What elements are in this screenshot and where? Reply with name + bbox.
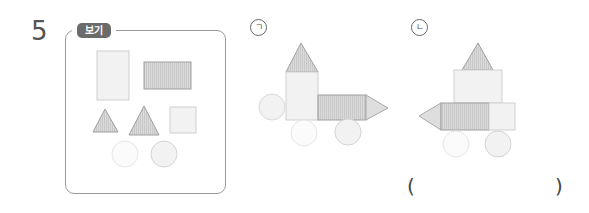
wide-rectangle-shape: [441, 103, 489, 130]
answer-close-paren: ): [555, 174, 563, 198]
circle-shape-light: [443, 131, 469, 157]
wide-rectangle-shape: [318, 95, 366, 120]
small-triangle-shape: [93, 109, 118, 132]
option-b-figure: [419, 43, 515, 157]
large-triangle-shape: [129, 106, 159, 135]
triangle-shape: [286, 43, 318, 72]
arrow-triangle-shape: [419, 103, 441, 130]
circle-shape-light: [291, 120, 317, 146]
option-a-figure: [259, 43, 388, 146]
tall-rectangle-shape: [97, 51, 129, 100]
option-b-label: ㄴ: [411, 19, 428, 36]
example-shapes: [93, 51, 196, 167]
answer-blank[interactable]: [420, 176, 555, 198]
option-a-label: ㄱ: [250, 19, 267, 36]
circle-shape: [151, 141, 177, 167]
square-shape: [454, 70, 502, 103]
circle-shape-light: [112, 141, 138, 167]
small-square-shape: [170, 107, 196, 133]
small-square-shape: [489, 103, 515, 130]
wide-rectangle-shape: [144, 62, 191, 89]
tall-rectangle-shape: [286, 72, 318, 120]
circle-shape: [259, 94, 285, 120]
circle-shape: [485, 131, 511, 157]
triangle-shape: [462, 43, 493, 70]
answer-open-paren: (: [407, 174, 415, 198]
arrow-triangle-shape: [366, 95, 388, 120]
circle-shape: [335, 119, 361, 145]
